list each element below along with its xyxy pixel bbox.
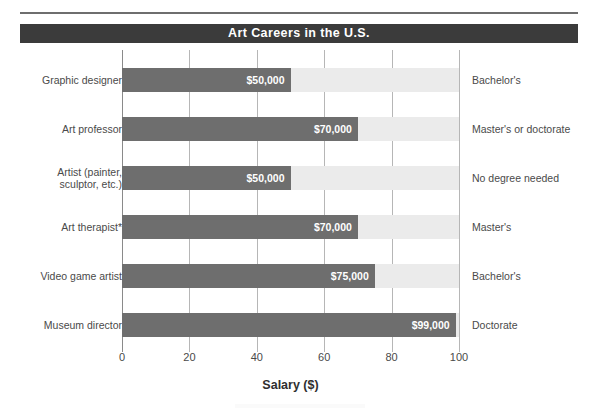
bar-row-label: Art therapist*	[0, 221, 122, 233]
x-tick-label: 40	[251, 352, 263, 363]
bar-row-label: Video game artist	[0, 270, 122, 282]
bar-row-label: Museum director	[0, 319, 122, 331]
bar-rows: Graphic designer$50,000Bachelor'sArt pro…	[0, 50, 595, 352]
page-bottom-artifact	[235, 404, 365, 408]
bar-value-label: $75,000	[331, 271, 369, 282]
bar-row: Art therapist*$70,000Master's	[0, 215, 595, 239]
bar: $99,000	[122, 313, 456, 337]
bar-value-label: $99,000	[412, 320, 450, 331]
x-tick-label: 0	[119, 352, 125, 363]
bar-row: Art professor$70,000Master's or doctorat…	[0, 117, 595, 141]
bar: $75,000	[122, 264, 375, 288]
x-tick-label: 100	[450, 352, 468, 363]
education-requirement-label: Master's	[472, 221, 511, 233]
bar: $70,000	[122, 215, 358, 239]
x-tick-label: 60	[318, 352, 330, 363]
education-requirement-label: Bachelor's	[472, 74, 521, 86]
bar-row: Video game artist$75,000Bachelor's	[0, 264, 595, 288]
education-requirement-label: Doctorate	[472, 319, 518, 331]
bar: $70,000	[122, 117, 358, 141]
bar-value-label: $70,000	[314, 124, 352, 135]
bar: $50,000	[122, 166, 291, 190]
bar-value-label: $50,000	[247, 173, 285, 184]
x-tick-label: 20	[183, 352, 195, 363]
chart-title-banner: Art Careers in the U.S.	[20, 24, 578, 43]
x-axis-title: Salary ($)	[0, 378, 595, 392]
x-tick-label: 80	[385, 352, 397, 363]
top-divider-rule	[20, 12, 578, 14]
plot-area: Graphic designer$50,000Bachelor'sArt pro…	[0, 50, 595, 360]
bar: $50,000	[122, 68, 291, 92]
bar-row-label: Graphic designer	[0, 74, 122, 86]
bar-row-label: Art professor	[0, 123, 122, 135]
page-title: Art Careers in the U.S.	[228, 27, 370, 40]
education-requirement-label: Bachelor's	[472, 270, 521, 282]
bar-value-label: $70,000	[314, 222, 352, 233]
chart-figure: Art Careers in the U.S. Graphic designer…	[0, 0, 595, 412]
bar-value-label: $50,000	[247, 75, 285, 86]
bar-row: Artist (painter, sculptor, etc.)$50,000N…	[0, 166, 595, 190]
education-requirement-label: No degree needed	[472, 172, 559, 184]
bar-row-label: Artist (painter, sculptor, etc.)	[0, 166, 122, 190]
education-requirement-label: Master's or doctorate	[472, 123, 570, 135]
bar-row: Graphic designer$50,000Bachelor's	[0, 68, 595, 92]
x-axis-title-text: Salary ($)	[262, 378, 318, 392]
bar-row: Museum director$99,000Doctorate	[0, 313, 595, 337]
x-axis-tick-labels: 020406080100	[0, 352, 595, 372]
